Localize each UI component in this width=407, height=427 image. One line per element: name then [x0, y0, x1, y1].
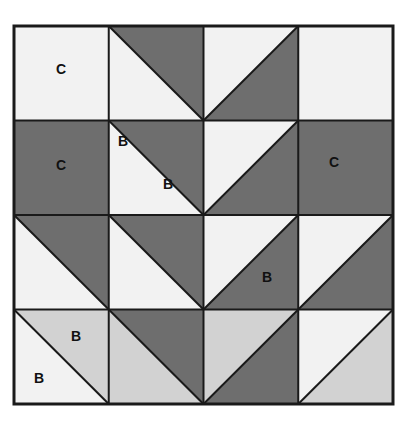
- label-b-right: B: [262, 269, 272, 285]
- label-c-mid-left: C: [56, 157, 66, 173]
- label-b-bottom-upper: B: [71, 328, 81, 344]
- label-c-mid-right: C: [329, 154, 339, 170]
- label-c-top-left: C: [56, 61, 66, 77]
- label-b-upper-center: B: [118, 133, 128, 149]
- patch-r2c4: [298, 121, 393, 216]
- patch-r1c4: [298, 26, 393, 121]
- label-b-bottom-lower: B: [34, 370, 44, 386]
- label-b-diamond: B: [163, 176, 173, 192]
- quilt-block-canvas: CCBBCBBB: [0, 0, 407, 427]
- quilt-block-diagram: CCBBCBBB: [0, 0, 407, 427]
